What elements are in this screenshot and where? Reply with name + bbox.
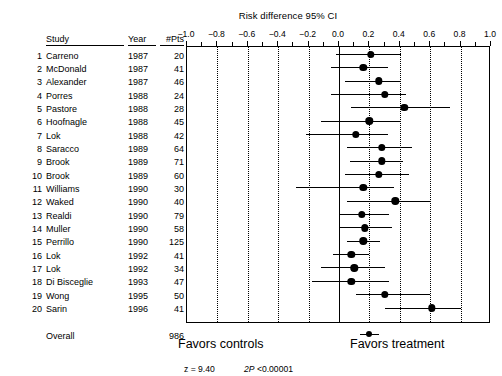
column-header-year: Year	[128, 34, 156, 46]
study-pts: 64	[158, 142, 184, 156]
x-tick-label: 0.2	[362, 29, 374, 39]
chart-title: Risk difference 95% CI	[0, 10, 502, 21]
point-estimate-marker	[381, 291, 388, 298]
point-estimate-marker	[358, 211, 365, 218]
study-year: 1990	[128, 222, 156, 236]
study-pts: 46	[158, 75, 184, 89]
study-pts: 41	[158, 302, 184, 316]
row-index: 13	[24, 209, 42, 223]
confidence-interval-line	[385, 308, 461, 309]
x-tick-label: 0.6	[423, 29, 435, 39]
study-estimate-row	[187, 261, 489, 275]
p-statistic: 2P <0.00001	[244, 364, 293, 374]
study-pts: 47	[158, 275, 184, 289]
point-estimate-marker	[350, 264, 357, 271]
row-index: 9	[24, 155, 42, 169]
study-name: Brook	[46, 155, 70, 169]
study-estimate-row	[187, 101, 489, 115]
point-estimate-marker	[360, 184, 367, 191]
study-name: Carreno	[46, 49, 79, 63]
study-estimate-row	[187, 221, 489, 235]
study-pts: 60	[158, 169, 184, 183]
x-tick-minor	[444, 42, 445, 46]
confidence-interval-line	[345, 81, 401, 82]
point-estimate-marker	[360, 64, 367, 71]
study-name: Saracco	[46, 142, 79, 156]
row-index: 19	[24, 289, 42, 303]
x-tick-major	[490, 41, 491, 46]
point-estimate-marker	[352, 131, 359, 138]
study-pts: 50	[158, 289, 184, 303]
study-pts: 34	[158, 262, 184, 276]
study-name: Lok	[46, 129, 61, 143]
study-pts: 20	[158, 49, 184, 63]
confidence-interval-line	[356, 294, 430, 295]
point-estimate-marker	[381, 91, 388, 98]
x-tick-minor	[262, 42, 263, 46]
study-estimate-row	[187, 61, 489, 75]
plot-area: z = 9.40 2P <0.00001	[186, 46, 490, 323]
row-index: 10	[24, 169, 42, 183]
x-tick-major	[368, 41, 369, 46]
x-tick-minor	[353, 42, 354, 46]
point-estimate-marker	[392, 197, 399, 204]
study-name: Brook	[46, 169, 70, 183]
study-name: Sarin	[46, 302, 67, 316]
study-year: 1990	[128, 195, 156, 209]
study-name: Pastore	[46, 102, 77, 116]
overall-label: Overall	[46, 329, 75, 343]
study-pts: 45	[158, 115, 184, 129]
x-tick-minor	[414, 42, 415, 46]
study-name: Realdi	[46, 209, 72, 223]
x-tick-label: 0.0	[332, 29, 344, 39]
row-index: 2	[24, 62, 42, 76]
row-index: 14	[24, 222, 42, 236]
confidence-interval-line	[306, 134, 388, 135]
study-year: 1990	[128, 182, 156, 196]
x-tick-major	[429, 41, 430, 46]
study-year: 1990	[128, 209, 156, 223]
x-tick-major	[338, 41, 339, 46]
study-name: Williams	[46, 182, 80, 196]
x-tick-major	[247, 41, 248, 46]
study-name: Lok	[46, 262, 61, 276]
row-index: 17	[24, 262, 42, 276]
favors-controls-label: Favors controls	[178, 337, 263, 351]
row-index: 5	[24, 102, 42, 116]
x-tick-minor	[323, 42, 324, 46]
study-estimate-row	[187, 301, 489, 315]
study-estimate-row	[187, 234, 489, 248]
study-year: 1988	[128, 102, 156, 116]
point-estimate-marker	[360, 237, 367, 244]
x-tick-major	[216, 41, 217, 46]
row-index: 12	[24, 195, 42, 209]
row-index: 4	[24, 89, 42, 103]
confidence-interval-line	[350, 161, 403, 162]
z-label: z =	[184, 364, 196, 374]
z-statistic: z = 9.40	[184, 364, 215, 374]
study-estimate-row	[187, 114, 489, 128]
study-pts: 58	[158, 222, 184, 236]
study-name: Di Bisceglie	[46, 275, 93, 289]
x-tick-major	[399, 41, 400, 46]
x-tick-label: −0.2	[299, 29, 316, 39]
row-index: 18	[24, 275, 42, 289]
study-estimate-row	[187, 154, 489, 168]
study-name: Waked	[46, 195, 74, 209]
row-index: 1	[24, 49, 42, 63]
point-estimate-marker	[375, 171, 382, 178]
study-estimate-row	[187, 48, 489, 62]
x-tick-major	[277, 41, 278, 46]
study-year: 1988	[128, 115, 156, 129]
study-table: 1Carreno1987202McDonald1987413Alexander1…	[0, 47, 186, 327]
study-year: 1989	[128, 169, 156, 183]
study-pts: 71	[158, 155, 184, 169]
row-index: 7	[24, 129, 42, 143]
x-tick-label: −0.8	[208, 29, 225, 39]
study-year: 1990	[128, 235, 156, 249]
x-tick-minor	[201, 42, 202, 46]
row-index: 15	[24, 235, 42, 249]
confidence-interval-line	[347, 201, 431, 202]
study-year: 1988	[128, 129, 156, 143]
point-estimate-marker	[401, 104, 408, 111]
